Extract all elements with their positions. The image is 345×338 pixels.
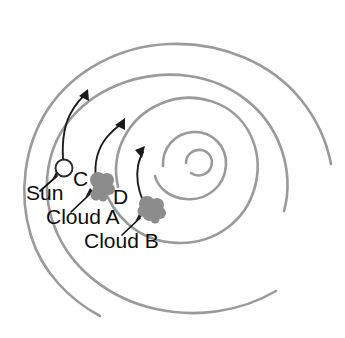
- motion-arrow-cloud-b: [135, 146, 145, 201]
- motion-arrow-sun-path: [63, 95, 85, 159]
- label-cloud-b: Cloud B: [84, 230, 159, 251]
- spiral-arms-group: [24, 44, 331, 316]
- spiral-arm-outer: [24, 44, 331, 316]
- motion-arrow-cloud-b-head: [135, 146, 145, 158]
- motion-arrow-sun: [63, 89, 89, 159]
- spiral-arm-core: [186, 150, 212, 176]
- spiral-arm-d: [104, 98, 258, 243]
- sun-marker: [56, 160, 73, 177]
- spiral-galaxy-diagram: Sun C D Cloud A Cloud B: [0, 0, 345, 338]
- galaxy-illustration: [0, 0, 345, 338]
- label-cloud-a: Cloud A: [46, 206, 120, 227]
- spiral-arm-c-inner: [155, 132, 226, 199]
- label-arm-c: C: [73, 168, 88, 189]
- motion-arrow-cloud-b-path: [137, 152, 143, 201]
- cloud-b-marker: [138, 196, 167, 224]
- cloud-a-marker: [90, 172, 115, 202]
- label-arm-d: D: [113, 186, 128, 207]
- label-sun: Sun: [26, 182, 63, 203]
